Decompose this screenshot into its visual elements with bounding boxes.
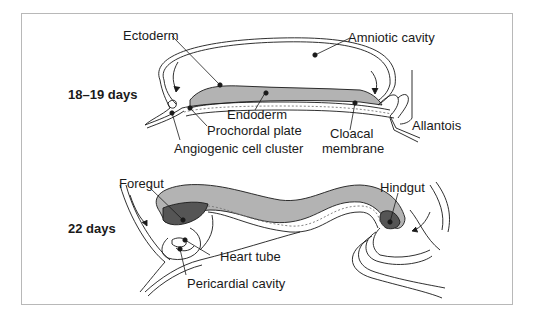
label-pericardial-cavity: Pericardial cavity [187, 276, 286, 291]
label-angiogenic-cell-cluster: Angiogenic cell cluster [174, 141, 304, 156]
embryo-folding-diagram: 18–19 days 22 days Ectoderm Amniotic cav… [0, 0, 533, 321]
label-foregut: Foregut [119, 176, 164, 191]
label-ectoderm: Ectoderm [123, 28, 179, 43]
label-heart-tube: Heart tube [220, 249, 281, 264]
stage-label-22-days: 22 days [68, 221, 116, 236]
label-cloacal-membrane-line1: Cloacal [330, 126, 373, 141]
label-amniotic-cavity: Amniotic cavity [348, 30, 435, 45]
label-cloacal-membrane-line2: membrane [322, 141, 384, 156]
stage-label-18-19-days: 18–19 days [68, 87, 137, 102]
label-allantois: Allantois [412, 118, 462, 133]
label-prochordal-plate: Prochordal plate [207, 123, 302, 138]
label-hindgut: Hindgut [380, 180, 425, 195]
label-endoderm: Endoderm [227, 107, 287, 122]
